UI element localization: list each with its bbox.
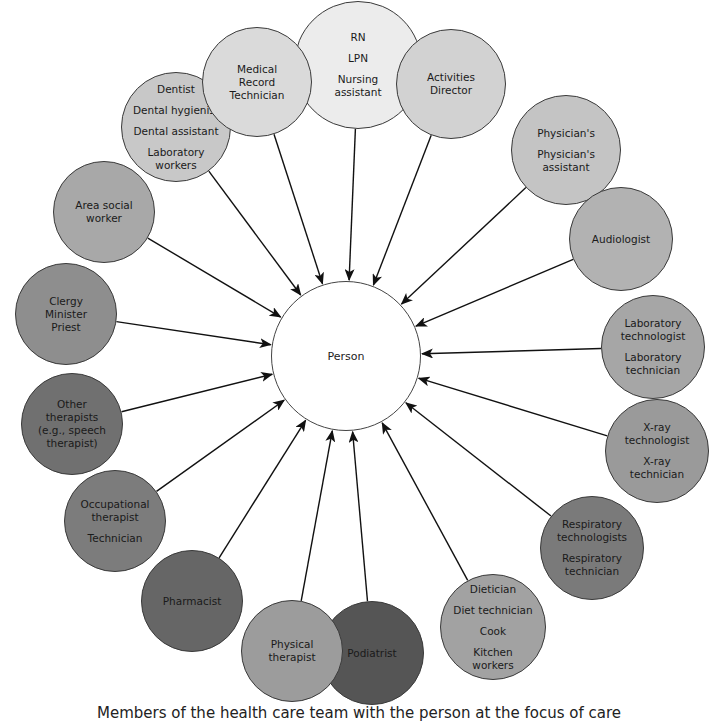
node-text-line: assistant xyxy=(537,161,595,174)
node-text-line: Laboratory xyxy=(624,351,681,364)
figure-caption: Members of the health care team with the… xyxy=(0,704,718,722)
node-audiologist: Audiologist xyxy=(569,187,673,291)
arrow-physician xyxy=(402,188,526,305)
node-role-label: RN xyxy=(350,31,365,44)
node-text-line: Diet technician xyxy=(453,604,532,617)
node-text-line: (e.g., speech xyxy=(38,424,106,437)
node-role-label: Dental hygienist xyxy=(133,104,219,117)
node-respiratory: RespiratorytechnologistsRespiratorytechn… xyxy=(540,496,644,600)
node-text-line: Cook xyxy=(480,625,506,638)
arrow-respiratory xyxy=(406,403,551,516)
arrow-physical-therapist xyxy=(301,431,332,601)
node-laboratory: LaboratorytechnologistLaboratorytechnici… xyxy=(601,295,705,399)
node-pharmacist: Pharmacist xyxy=(141,550,243,652)
arrow-clergy xyxy=(116,322,270,345)
node-text-line: Priest xyxy=(45,321,87,334)
node-text-line: technician xyxy=(630,468,684,481)
node-other-therapists: Othertherapists(e.g., speechtherapist) xyxy=(21,373,123,475)
node-text-line: therapist xyxy=(80,511,149,524)
arrow-area-social-worker xyxy=(148,238,281,317)
node-text-line: Technician xyxy=(88,532,143,545)
node-text-line: assistant xyxy=(334,86,381,99)
node-role-label: Physician's xyxy=(537,127,595,140)
node-text-line: Kitchen xyxy=(472,646,513,659)
node-role-label: Physicaltherapist xyxy=(268,638,315,664)
node-text-line: Technician xyxy=(230,89,285,102)
node-text-line: Other xyxy=(38,398,106,411)
arrow-other-therapists xyxy=(122,374,273,411)
node-role-label: MedicalRecordTechnician xyxy=(230,63,285,102)
node-role-label: Dentist xyxy=(157,83,195,96)
node-text-line: X-ray xyxy=(625,421,690,434)
node-text-line: Dental hygienist xyxy=(133,104,219,117)
arrow-nursing xyxy=(349,129,355,280)
arrow-podiatrist xyxy=(353,432,368,602)
arrow-medical-record-technician xyxy=(274,134,323,283)
node-text-line: Podiatrist xyxy=(347,647,396,660)
arrow-pharmacist xyxy=(219,420,306,558)
node-text-line: RN xyxy=(350,31,365,44)
node-area-social-worker: Area socialworker xyxy=(53,161,155,263)
node-role-label: Podiatrist xyxy=(347,647,396,660)
person-label: Person xyxy=(328,350,365,363)
node-role-label: LPN xyxy=(348,52,368,65)
node-role-label: Audiologist xyxy=(592,233,650,246)
node-text-line: technician xyxy=(624,364,681,377)
node-role-label: X-raytechnologist xyxy=(625,421,690,447)
node-text-line: Laboratory xyxy=(147,146,204,159)
node-text-line: Physical xyxy=(268,638,315,651)
arrow-laboratory xyxy=(422,349,601,354)
arrow-activities-director xyxy=(373,135,431,285)
node-text-line: Activities xyxy=(427,71,475,84)
node-text-line: Clergy xyxy=(45,295,87,308)
node-text-line: Occupational xyxy=(80,498,149,511)
node-text-line: Respiratory xyxy=(557,518,627,531)
node-role-label: Physician'sassistant xyxy=(537,148,595,174)
node-text-line: Laboratory xyxy=(621,317,686,330)
node-text-line: therapists xyxy=(38,411,106,424)
node-role-label: X-raytechnician xyxy=(630,455,684,481)
node-clergy: ClergyMinisterPriest xyxy=(15,263,117,365)
node-role-label: Dietician xyxy=(470,583,516,596)
node-text-line: Area social xyxy=(75,199,132,212)
node-text-line: Respiratory xyxy=(562,552,622,565)
arrow-dental xyxy=(209,171,301,295)
node-text-line: technologist xyxy=(621,330,686,343)
node-role-label: Occupationaltherapist xyxy=(80,498,149,524)
node-role-label: Kitchenworkers xyxy=(472,646,513,672)
node-role-label: Respiratorytechnologists xyxy=(557,518,627,544)
node-role-label: Laboratorytechnologist xyxy=(621,317,686,343)
node-occupational-therapist: OccupationaltherapistTechnician xyxy=(64,470,166,572)
arrow-x-ray xyxy=(419,378,608,436)
node-text-line: Record xyxy=(230,76,285,89)
node-x-ray: X-raytechnologistX-raytechnician xyxy=(605,399,709,503)
node-text-line: Pharmacist xyxy=(163,595,222,608)
arrow-dietary xyxy=(382,423,468,581)
node-text-line: Dietician xyxy=(470,583,516,596)
node-text-line: Dentist xyxy=(157,83,195,96)
node-role-label: Pharmacist xyxy=(163,595,222,608)
node-medical-record-technician: MedicalRecordTechnician xyxy=(202,27,312,137)
node-text-line: worker xyxy=(75,212,132,225)
node-physical-therapist: Physicaltherapist xyxy=(241,600,343,702)
node-role-label: ActivitiesDirector xyxy=(427,71,475,97)
node-text-line: technician xyxy=(562,565,622,578)
node-text-line: Minister xyxy=(45,308,87,321)
node-activities-director: ActivitiesDirector xyxy=(396,29,506,139)
node-text-line: Dental assistant xyxy=(133,125,218,138)
node-text-line: therapist) xyxy=(38,437,106,450)
node-role-label: Nursingassistant xyxy=(334,73,381,99)
node-role-label: ClergyMinisterPriest xyxy=(45,295,87,334)
node-text-line: Audiologist xyxy=(592,233,650,246)
node-role-label: Laboratoryworkers xyxy=(147,146,204,172)
node-dietary: DieticianDiet technicianCookKitchenworke… xyxy=(440,574,546,680)
person-center-node: Person xyxy=(271,281,421,431)
node-role-label: Laboratorytechnician xyxy=(624,351,681,377)
node-text-line: workers xyxy=(147,159,204,172)
arrow-occupational-therapist xyxy=(157,400,285,491)
node-text-line: Nursing xyxy=(334,73,381,86)
node-text-line: LPN xyxy=(348,52,368,65)
node-role-label: Area socialworker xyxy=(75,199,132,225)
node-role-label: Cook xyxy=(480,625,506,638)
